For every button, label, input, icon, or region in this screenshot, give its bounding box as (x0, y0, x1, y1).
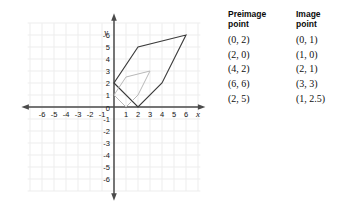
x-tick-label: 3 (148, 110, 152, 119)
x-tick-label: 6 (184, 110, 188, 119)
x-axis-arrow-left (21, 104, 29, 110)
axes (21, 13, 205, 201)
preimage-point-cell: (6, 6) (228, 77, 296, 92)
y-tick-label: 3 (106, 67, 110, 76)
column-header-image: Image point (296, 10, 358, 33)
image-point-cell: (1, 0) (296, 47, 358, 62)
preimage-point-cell: (0, 2) (228, 33, 296, 48)
figure-root: -6-5-4-3-2-1123456654321-1-2-3-4-5-60xy … (0, 0, 358, 224)
column-header-preimage: Preimage point (228, 10, 296, 33)
table-row: (2, 0)(1, 0) (228, 47, 358, 62)
preimage-point-cell: (2, 5) (228, 92, 296, 107)
image-point-cell: (3, 3) (296, 77, 358, 92)
y-tick-label: 4 (106, 55, 110, 64)
y-tick-label: -2 (103, 127, 110, 136)
table-header-row: Preimage point Image point (228, 10, 358, 33)
image-point-cell: (2, 1) (296, 62, 358, 77)
preimage-point-cell: (2, 0) (228, 47, 296, 62)
y-axis-arrow-bottom (111, 193, 117, 201)
x-tick-label: 5 (172, 110, 176, 119)
x-tick-label: -3 (75, 110, 82, 119)
axis-names: xy (103, 27, 200, 119)
y-tick-label: 5 (106, 43, 110, 52)
x-tick-label: -6 (39, 110, 46, 119)
table: Preimage point Image point (0, 2)(0, 1)(… (228, 10, 358, 106)
y-tick-label: -4 (103, 151, 110, 160)
table-row: (2, 5)(1, 2.5) (228, 92, 358, 107)
y-tick-label: -1 (103, 115, 110, 124)
y-tick-label: -6 (103, 175, 110, 184)
x-axis-label: x (195, 109, 200, 119)
y-axis-arrow-top (111, 13, 117, 21)
x-tick-label: 4 (160, 110, 164, 119)
image-point-cell: (1, 2.5) (296, 92, 358, 107)
x-tick-label: -4 (63, 110, 70, 119)
image-point-cell: (0, 1) (296, 33, 358, 48)
x-tick-label: -2 (87, 110, 94, 119)
table-row: (0, 2)(0, 1) (228, 33, 358, 48)
table-row: (4, 2)(2, 1) (228, 62, 358, 77)
points-table: Preimage point Image point (0, 2)(0, 1)(… (228, 10, 358, 106)
x-tick-label: 1 (124, 110, 128, 119)
y-tick-label: 2 (106, 79, 110, 88)
origin-label: 0 (106, 104, 110, 113)
x-tick-label: 2 (136, 110, 140, 119)
y-axis-label: y (103, 27, 108, 37)
x-tick-label: -5 (51, 110, 58, 119)
graph-svg: -6-5-4-3-2-1123456654321-1-2-3-4-5-60xy (0, 0, 210, 224)
coordinate-plane: -6-5-4-3-2-1123456654321-1-2-3-4-5-60xy (0, 0, 210, 224)
y-tick-label: 1 (106, 91, 110, 100)
table-row: (6, 6)(3, 3) (228, 77, 358, 92)
preimage-point-cell: (4, 2) (228, 62, 296, 77)
table-body: (0, 2)(0, 1)(2, 0)(1, 0)(4, 2)(2, 1)(6, … (228, 33, 358, 107)
y-tick-label: -5 (103, 163, 110, 172)
table-head: Preimage point Image point (228, 10, 358, 33)
y-tick-label: -3 (103, 139, 110, 148)
